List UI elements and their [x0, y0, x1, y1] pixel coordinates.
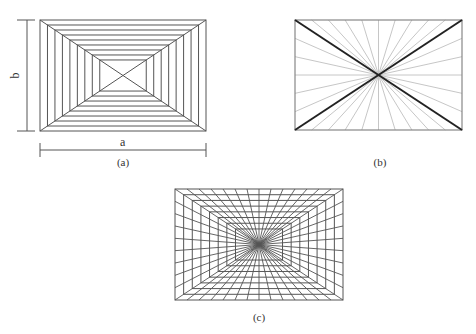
- caption-b: (b): [374, 156, 387, 168]
- figure-canvas: [0, 0, 476, 334]
- caption-c: (c): [253, 311, 265, 323]
- radial-line: [312, 20, 379, 75]
- panel-a-nested-rectangles: [40, 20, 206, 131]
- perspective-ray: [175, 245, 259, 301]
- panel-c-perspective-grid: [175, 189, 343, 300]
- dimension-label-b: b: [8, 73, 23, 79]
- radial-line: [379, 75, 412, 130]
- perspective-ray: [175, 189, 259, 245]
- radial-line: [295, 75, 379, 112]
- perspective-ray: [259, 189, 319, 245]
- radial-line: [295, 38, 379, 75]
- radial-line: [379, 20, 446, 75]
- radial-line: [345, 75, 378, 130]
- perspective-ray: [199, 245, 259, 301]
- radial-line: [379, 20, 412, 75]
- radial-line: [379, 38, 463, 75]
- radial-line: [345, 20, 378, 75]
- perspective-ray: [199, 189, 259, 245]
- radial-line: [379, 75, 463, 112]
- panel-b-radial-lines: [295, 20, 462, 130]
- perspective-ray: [259, 245, 343, 301]
- radial-line: [312, 75, 379, 130]
- panel-a-dimension-lines: [17, 20, 206, 157]
- perspective-ray: [259, 245, 319, 301]
- dimension-label-a: a: [120, 135, 125, 150]
- radial-line: [379, 75, 446, 130]
- perspective-ray: [259, 189, 343, 245]
- caption-a: (a): [117, 156, 129, 168]
